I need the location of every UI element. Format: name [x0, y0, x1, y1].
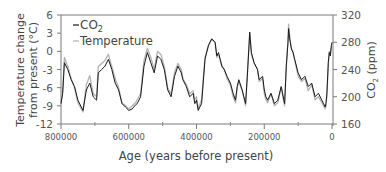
- x-tick-label: 600000: [113, 132, 145, 142]
- legend-item-co2: CO2: [73, 18, 103, 34]
- x-tick-label: 800000: [45, 132, 77, 142]
- left-y-axis-title: Temperature change from present (°C): [14, 13, 40, 128]
- x-axis-title: Age (years before present): [119, 149, 274, 163]
- left-y-axis-title-line-1: Temperature change: [14, 13, 27, 128]
- left-tick-label: -3: [43, 64, 53, 76]
- legend: CO2 Temperature: [73, 18, 153, 48]
- legend-item-temperature: Temperature: [73, 34, 153, 48]
- right-tick-label: 320: [341, 9, 361, 21]
- left-tick-label: 6: [46, 9, 53, 21]
- x-tick-label: 0: [329, 132, 334, 142]
- legend-label-temperature: Temperature: [79, 34, 153, 48]
- left-tick-label: -9: [43, 100, 53, 112]
- right-tick-label: 240: [341, 64, 361, 76]
- right-tick-label: 200: [341, 91, 361, 103]
- x-tick-label: 200000: [248, 132, 280, 142]
- left-y-axis-title-line-2: from present (°C): [27, 22, 40, 118]
- right-tick-label: 280: [341, 36, 361, 48]
- left-tick-label: 0: [46, 45, 53, 57]
- left-tick-label: -6: [43, 82, 54, 94]
- x-axis-ticks: 8000006000004000002000000: [45, 122, 335, 142]
- legend-label-co2: CO2: [80, 18, 103, 34]
- co2-temperature-chart: 630-3-6-9-12 320280240200160 80000060000…: [0, 0, 386, 172]
- right-y-axis-ticks: 320280240200160: [333, 9, 361, 130]
- right-y-axis-title: CO2 (ppm): [365, 41, 380, 99]
- x-tick-label: 400000: [180, 132, 212, 142]
- left-tick-label: -12: [36, 118, 53, 130]
- left-tick-label: 3: [46, 27, 53, 39]
- right-tick-label: 160: [341, 118, 361, 130]
